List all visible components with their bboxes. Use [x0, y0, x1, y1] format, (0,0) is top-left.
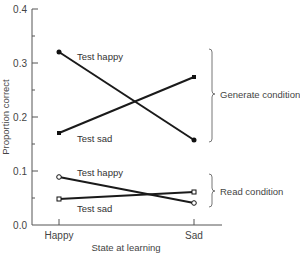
y-tick-0-4: 0.4 — [13, 4, 27, 15]
y-tick-0-1: 0.1 — [13, 166, 27, 177]
brace-read-condition: Read condition — [209, 174, 283, 207]
x-axis-label: State at learning — [91, 242, 160, 253]
marker-open-square — [57, 197, 61, 201]
label-read-test-happy: Test happy — [77, 167, 123, 178]
y-tick-0-3: 0.3 — [13, 58, 27, 69]
x-tick-happy: Happy — [45, 230, 74, 241]
series-read-test-happy: Test happy — [57, 167, 197, 205]
label-generate-test-sad: Test sad — [77, 133, 112, 144]
series-generate-test-happy: Test happy — [57, 50, 197, 143]
marker-open-square — [192, 190, 196, 194]
marker-filled-square — [57, 131, 61, 135]
marker-open-circle — [192, 201, 197, 206]
y-tick-0-0: 0.0 — [13, 220, 27, 231]
marker-filled-square — [192, 75, 196, 79]
y-axis-label: Proportion correct — [0, 79, 11, 155]
marker-filled-circle — [192, 138, 197, 143]
line-chart: 0.4 0.3 0.2 0.1 0.0 Proportion correct H… — [0, 0, 300, 257]
marker-filled-circle — [57, 50, 62, 55]
x-axis: Happy Sad State at learning — [32, 219, 222, 253]
series-generate-test-sad: Test sad — [57, 75, 196, 144]
series-read-test-sad: Test sad — [57, 190, 196, 214]
label-generate-condition: Generate condition — [220, 89, 300, 100]
label-generate-test-happy: Test happy — [77, 51, 123, 62]
y-tick-0-2: 0.2 — [13, 112, 27, 123]
y-axis: 0.4 0.3 0.2 0.1 0.0 Proportion correct — [0, 4, 38, 231]
label-read-condition: Read condition — [220, 186, 283, 197]
label-read-test-sad: Test sad — [77, 203, 112, 214]
x-tick-sad: Sad — [185, 230, 203, 241]
brace-generate-condition: Generate condition — [209, 49, 300, 142]
marker-open-circle — [57, 175, 62, 180]
